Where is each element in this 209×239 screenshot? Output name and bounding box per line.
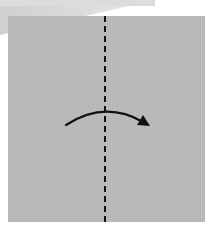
origami-diagram — [0, 0, 209, 239]
background-sheet-strip — [0, 0, 155, 6]
paper-square — [8, 16, 205, 222]
